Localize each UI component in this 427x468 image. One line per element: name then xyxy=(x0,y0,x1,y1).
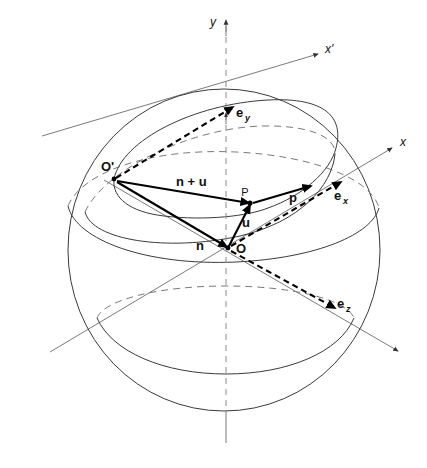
vector-e-z xyxy=(231,251,335,308)
vector-label-n: n xyxy=(196,238,204,253)
axis-label-x: x xyxy=(399,135,407,149)
point-label-P: P xyxy=(241,186,248,198)
sphere-reference-frame-diagram: y x' x O O' P n + u n u p e y e x e z xyxy=(0,0,427,468)
vector-label-e-y-base: e xyxy=(236,105,243,120)
vector-label-u: u xyxy=(242,215,250,230)
point-O-marker xyxy=(226,246,231,251)
vector-label-e-y: e y xyxy=(236,105,251,123)
vector-label-e-y-sub: y xyxy=(244,113,251,123)
vector-label-e-z-sub: z xyxy=(345,304,351,314)
vector-label-e-z-base: e xyxy=(337,296,344,311)
vector-e-y xyxy=(116,107,233,178)
axis-z xyxy=(104,180,398,351)
vector-label-e-x: e x xyxy=(334,188,349,206)
point-label-O: O xyxy=(236,241,246,256)
vector-label-p: p xyxy=(289,190,297,205)
vector-p xyxy=(253,186,311,203)
vector-label-e-z: e z xyxy=(337,296,351,314)
point-O-prime-marker xyxy=(112,177,117,182)
axis-label-y: y xyxy=(209,15,217,29)
vector-label-e-x-sub: x xyxy=(342,196,349,206)
axis-label-x-prime: x' xyxy=(324,42,334,56)
vector-n xyxy=(117,182,227,247)
point-P-marker xyxy=(247,200,252,205)
axis-x xyxy=(50,148,392,352)
vector-label-e-x-base: e xyxy=(334,188,341,203)
point-label-O-prime: O' xyxy=(101,159,114,174)
vector-label-n-plus-u: n + u xyxy=(176,174,207,189)
